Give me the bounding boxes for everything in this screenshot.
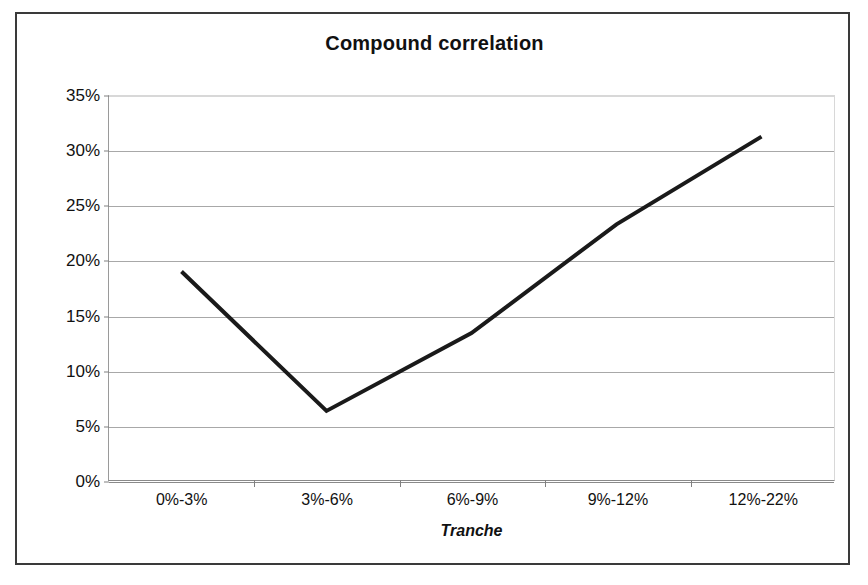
- y-axis-tick-label: 35%: [66, 86, 100, 106]
- chart-frame: Compound correlation 0%5%10%15%20%25%30%…: [15, 12, 850, 565]
- x-axis-tick-mark: [254, 480, 255, 487]
- gridline: [109, 482, 834, 483]
- chart-screenshot: Compound correlation 0%5%10%15%20%25%30%…: [0, 0, 868, 585]
- chart-title: Compound correlation: [17, 32, 852, 55]
- x-axis-tick-mark: [545, 480, 546, 487]
- y-axis-tick-label: 0%: [75, 472, 100, 492]
- series-polyline: [182, 137, 762, 411]
- x-axis-tick-label: 3%-6%: [301, 491, 353, 509]
- y-axis-tick-label: 30%: [66, 141, 100, 161]
- y-axis-tick-label: 10%: [66, 362, 100, 382]
- y-axis-tick-mark: [104, 482, 109, 483]
- y-axis-tick-label: 20%: [66, 251, 100, 271]
- x-axis-tick-label: 0%-3%: [156, 491, 208, 509]
- plot-area: 0%5%10%15%20%25%30%35% 0%-3%3%-6%6%-9%9%…: [108, 95, 835, 481]
- y-axis-tick-label: 15%: [66, 307, 100, 327]
- x-axis-tick-mark: [691, 480, 692, 487]
- x-axis-tick-label: 6%-9%: [447, 491, 499, 509]
- y-axis-tick-label: 25%: [66, 196, 100, 216]
- x-axis-tick-label: 9%-12%: [588, 491, 648, 509]
- x-axis-title: Tranche: [108, 522, 835, 540]
- y-axis-tick-label: 5%: [75, 417, 100, 437]
- x-axis-tick-mark: [400, 480, 401, 487]
- x-axis-tick-label: 12%-22%: [729, 491, 798, 509]
- data-series-line: [109, 96, 834, 480]
